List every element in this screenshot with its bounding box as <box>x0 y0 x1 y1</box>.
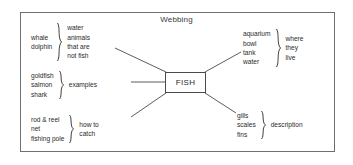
branch-label: where they live <box>286 34 304 62</box>
branch-label-line: examples <box>69 80 97 89</box>
curly-brace-icon <box>58 70 65 100</box>
branch-label: examples <box>69 80 97 89</box>
list-item: goldfish <box>31 71 54 80</box>
list-item: bowl <box>243 39 271 48</box>
curly-brace-icon <box>260 110 267 140</box>
branch-label-line: animals <box>67 33 90 42</box>
branch-label: description <box>271 120 303 129</box>
branch-examples-list: rod & reel net fishing pole <box>31 115 64 143</box>
branch-where-they-live[interactable]: aquarium bowl tank water where they live <box>243 28 303 68</box>
branch-label-line: how to <box>79 120 98 129</box>
branch-label-line: where <box>286 34 304 43</box>
branch-examples-list: goldfish salmon shark <box>31 71 54 99</box>
list-item: scales <box>237 120 256 129</box>
branch-examples-list: aquarium bowl tank water <box>243 29 271 66</box>
branch-examples-list: gills scales fins <box>237 111 256 139</box>
list-item: dolphin <box>31 42 52 51</box>
branch-label-line: live <box>286 53 304 62</box>
branch-description[interactable]: gills scales fins description <box>237 110 303 140</box>
curly-brace-icon <box>275 28 282 68</box>
list-item: aquarium <box>243 29 271 38</box>
curly-brace-icon <box>68 114 75 144</box>
branch-water-animals-not-fish[interactable]: whale dolphin water animals that are not… <box>31 22 90 62</box>
branch-examples-list: whale dolphin <box>31 33 52 52</box>
list-item: rod & reel <box>31 115 64 124</box>
list-item: fins <box>237 130 256 139</box>
list-item: salmon <box>31 80 54 89</box>
branch-label: water animals that are not fish <box>67 23 90 60</box>
branch-label-line: catch <box>79 129 98 138</box>
list-item: whale <box>31 33 52 42</box>
branch-label-line: water <box>67 23 90 32</box>
webbing-diagram-canvas: Webbing FISH whale dolphin water animals… <box>0 0 353 165</box>
list-item: gills <box>237 111 256 120</box>
branch-examples[interactable]: goldfish salmon shark examples <box>31 70 97 100</box>
list-item: net <box>31 124 64 133</box>
branch-label-line: description <box>271 120 303 129</box>
branch-label: how to catch <box>79 120 98 139</box>
list-item: shark <box>31 90 54 99</box>
branch-how-to-catch[interactable]: rod & reel net fishing pole how to catch <box>31 114 99 144</box>
list-item: fishing pole <box>31 134 64 143</box>
branch-label-line: not fish <box>67 51 90 60</box>
branch-label-line: they <box>286 43 304 52</box>
list-item: tank <box>243 48 271 57</box>
center-node-fish[interactable]: FISH <box>165 72 206 93</box>
branch-label-line: that are <box>67 42 90 51</box>
list-item: water <box>243 57 271 66</box>
curly-brace-icon <box>56 22 63 62</box>
